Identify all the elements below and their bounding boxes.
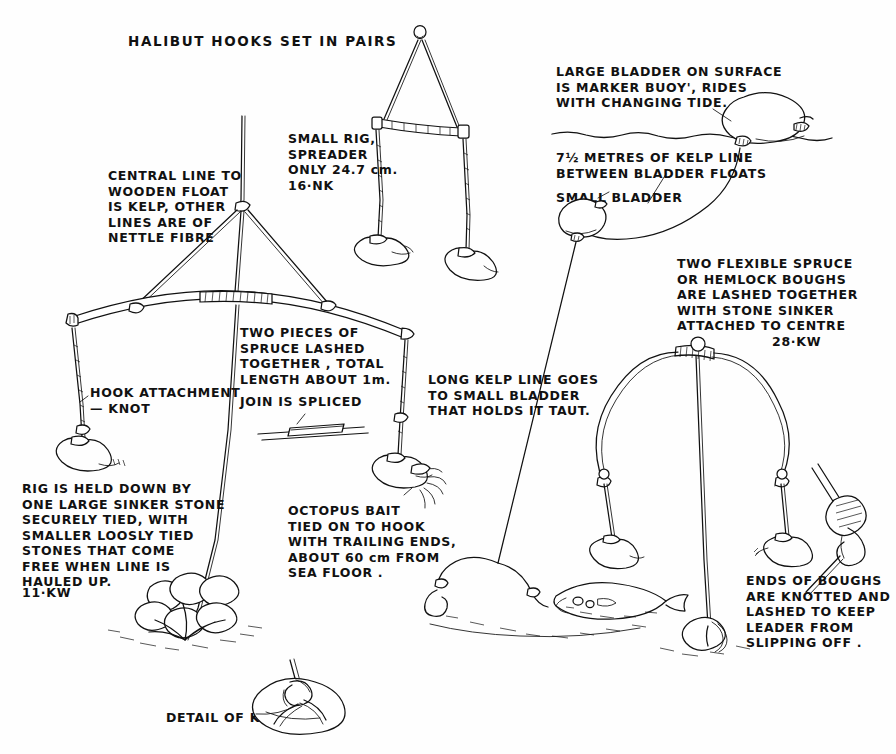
illustration-sheet: HALIBUT HOOKS SET IN PAIRS CENTRAL LINE … — [0, 0, 896, 754]
annotation-large-bladder: LARGE BLADDER ON SURFACE IS MARKER BUOY'… — [556, 64, 782, 111]
hook-small-left — [354, 235, 413, 266]
hook-bough-left — [590, 535, 644, 569]
centre-lashing — [200, 291, 272, 304]
bough-apex-lashing — [675, 337, 714, 361]
annotation-central-line: CENTRAL LINE TO WOODEN FLOAT IS KELP, OT… — [108, 168, 242, 246]
annotation-ends-of-boughs: ENDS OF BOUGHS ARE KNOTTED AND LASHED TO… — [746, 573, 891, 651]
bough-stone-sinker — [660, 617, 750, 656]
annotation-long-kelp-line: LONG KELP LINE GOES TO SMALL BLADDER THA… — [428, 372, 599, 419]
bough-end-knot-right — [775, 469, 789, 487]
annotation-rig-held-down: RIG IS HELD DOWN BY ONE LARGE SINKER STO… — [22, 481, 225, 590]
annotation-kelp-line-between-floats: 7½ METRES OF KELP LINE BETWEEN BLADDER F… — [556, 150, 767, 181]
bough-end-knot-left — [597, 469, 611, 487]
annotation-hook-attachment: HOOK ATTACHMENT — KNOT — [90, 385, 241, 416]
annotation-join-is-spliced: JOIN IS SPLICED — [240, 394, 362, 410]
annotation-rig-held-down-code: 11·KW — [22, 585, 71, 601]
hook-main-left — [56, 436, 125, 471]
hook-halibut-left — [425, 590, 448, 616]
hook-main-right-with-bait — [372, 453, 446, 508]
annotation-small-rig: SMALL RIG, SPREADER ONLY 24.7 cm. 16·NK — [288, 131, 398, 193]
figure-splice-detail — [258, 414, 368, 440]
hook-bough-right — [754, 533, 812, 567]
annotation-octopus-bait: OCTOPUS BAIT TIED ON TO HOOK WITH TRAILI… — [288, 503, 456, 581]
annotation-two-flexible-spruce-code: 28·KW — [772, 334, 821, 350]
hook-small-right — [445, 248, 498, 281]
page-title: HALIBUT HOOKS SET IN PAIRS — [128, 34, 397, 50]
annotation-small-bladder: SMALL BLADDER — [556, 190, 683, 206]
annotation-detail-of-knot: DETAIL OF KNOT — [166, 710, 292, 726]
annotation-two-flexible-spruce: TWO FLEXIBLE SPRUCE OR HEMLOCK BOUGHS AR… — [677, 256, 858, 334]
annotation-two-pieces-spruce: TWO PIECES OF SPRUCE LASHED TOGETHER , T… — [240, 325, 391, 387]
